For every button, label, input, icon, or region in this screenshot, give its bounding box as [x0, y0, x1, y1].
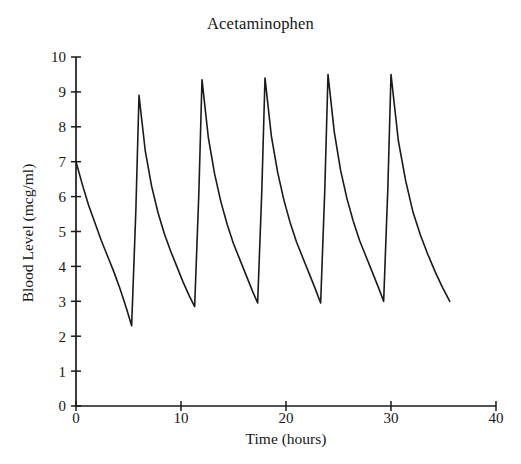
- plot-area: [0, 0, 521, 464]
- blood-level-curve: [76, 74, 450, 325]
- chart-figure: Acetaminophen Blood Level (mcg/ml) Time …: [0, 0, 521, 464]
